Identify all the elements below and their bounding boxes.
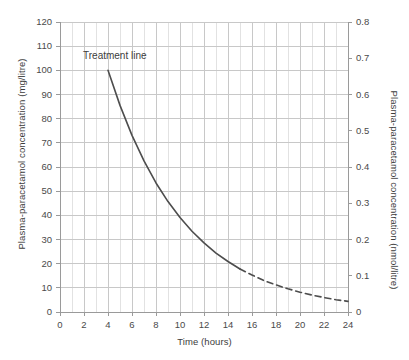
series-path-1 bbox=[240, 269, 348, 301]
x-axis-tick-8: 8 bbox=[145, 319, 167, 330]
y-axis-left-tick-70: 70 bbox=[26, 137, 52, 148]
y-axis-left-tick-60: 60 bbox=[26, 161, 52, 172]
y-axis-right-tick-0: 0 bbox=[356, 306, 382, 317]
x-axis-tick-16: 16 bbox=[241, 319, 263, 330]
y-axis-left-tick-10: 10 bbox=[26, 282, 52, 293]
y-axis-left-tick-40: 40 bbox=[26, 209, 52, 220]
y-axis-left-tick-90: 90 bbox=[26, 89, 52, 100]
y-axis-left-tick-50: 50 bbox=[26, 185, 52, 196]
y-axis-left-tick-30: 30 bbox=[26, 234, 52, 245]
y-axis-right-tick-0.6: 0.6 bbox=[356, 89, 382, 100]
major-gridlines bbox=[60, 22, 348, 312]
x-axis-tick-24: 24 bbox=[337, 319, 359, 330]
x-axis-tick-4: 4 bbox=[97, 319, 119, 330]
y-axis-left-tick-110: 110 bbox=[26, 40, 52, 51]
x-axis-tick-10: 10 bbox=[169, 319, 191, 330]
x-axis-title: Time (hours) bbox=[60, 336, 349, 347]
x-axis-tick-20: 20 bbox=[289, 319, 311, 330]
treatment-line-annotation: Treatment line bbox=[83, 50, 147, 61]
y-axis-left-tick-0: 0 bbox=[26, 306, 52, 317]
x-axis-tick-2: 2 bbox=[73, 319, 95, 330]
y-axis-left-tick-120: 120 bbox=[26, 16, 52, 27]
y-axis-right-tick-0.7: 0.7 bbox=[356, 52, 382, 63]
x-axis-tick-14: 14 bbox=[217, 319, 239, 330]
y-axis-right-tick-0.4: 0.4 bbox=[356, 161, 382, 172]
y-axis-right-title: Plasma-paracetamol concentration (nmol/l… bbox=[389, 40, 400, 340]
y-axis-left-tick-100: 100 bbox=[26, 64, 52, 75]
y-axis-right-tick-0.2: 0.2 bbox=[356, 234, 382, 245]
y-axis-left-tick-20: 20 bbox=[26, 258, 52, 269]
paracetamol-treatment-graph: Plasma-paracetamol concentration (mg/lit… bbox=[0, 0, 409, 360]
y-axis-left-tick-80: 80 bbox=[26, 113, 52, 124]
plot-area bbox=[0, 0, 409, 360]
y-axis-right-tick-0.3: 0.3 bbox=[356, 197, 382, 208]
x-axis-tick-22: 22 bbox=[313, 319, 335, 330]
x-axis-tick-18: 18 bbox=[265, 319, 287, 330]
y-axis-right-tick-0.1: 0.1 bbox=[356, 270, 382, 281]
y-axis-right-tick-0.8: 0.8 bbox=[356, 16, 382, 27]
x-axis-tick-12: 12 bbox=[193, 319, 215, 330]
x-axis-tick-0: 0 bbox=[49, 319, 71, 330]
y-axis-right-tick-0.5: 0.5 bbox=[356, 125, 382, 136]
x-axis-tick-6: 6 bbox=[121, 319, 143, 330]
